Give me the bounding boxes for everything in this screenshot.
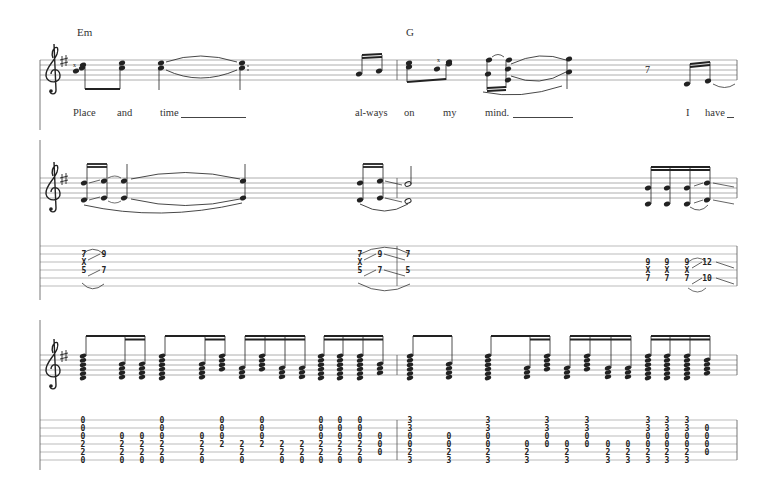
tab-fret-number: 2 — [260, 440, 265, 449]
chord-notehead — [79, 370, 87, 376]
chord-notehead — [376, 365, 384, 371]
chord-notehead — [118, 365, 126, 371]
tab-fret-number: 5 — [406, 266, 411, 275]
chord-notehead — [583, 357, 591, 363]
chord-notehead — [406, 366, 414, 372]
music-notation: x x 7 — [0, 0, 777, 489]
chord-notehead — [218, 362, 226, 368]
chord-notehead — [703, 361, 711, 367]
tab-fret-number: 10 — [702, 274, 712, 283]
system-2-tab-staff — [40, 246, 737, 286]
tab-fret-number: 0 — [545, 440, 550, 449]
tab-fret-number: 7 — [406, 250, 411, 259]
chord-notehead — [158, 375, 166, 381]
chord-notehead — [356, 366, 364, 372]
tab-fret-number: 3 — [525, 456, 530, 465]
tab-fret-number: 3 — [486, 456, 491, 465]
chord-notehead — [484, 366, 492, 372]
tab-fret-number: 7 — [102, 266, 107, 275]
chord-notehead — [356, 362, 364, 368]
chord-notehead — [484, 357, 492, 363]
chord-notehead — [336, 375, 344, 381]
chord-notehead — [158, 366, 166, 372]
chord-notehead — [683, 366, 691, 372]
tab-fret-number: 3 — [606, 456, 611, 465]
tab-fret-number: 12 — [702, 258, 712, 267]
chord-notehead — [356, 370, 364, 376]
chord-notehead — [336, 362, 344, 368]
chord-notehead — [79, 366, 87, 372]
chord-notehead — [356, 375, 364, 381]
tab-fret-number: 3 — [565, 456, 570, 465]
chord-notehead — [406, 370, 414, 376]
chord-notehead — [336, 370, 344, 376]
chord-notehead — [79, 362, 87, 368]
tab-fret-number: 7 — [378, 266, 383, 275]
system-3-tab-staff — [40, 420, 737, 460]
system-1-staff — [40, 60, 737, 80]
chord-notehead — [218, 366, 226, 372]
tab-fret-number: 3 — [447, 456, 452, 465]
system-3-chord-stack — [79, 336, 711, 381]
system-2-staff — [40, 178, 737, 198]
chord-notehead — [683, 362, 691, 368]
svg-text:x: x — [437, 57, 440, 63]
chord-notehead — [683, 357, 691, 363]
tab-fret-number: 0 — [319, 456, 324, 465]
chord-notehead — [198, 365, 206, 371]
chord-notehead — [317, 362, 325, 368]
tab-fret-number: 0 — [338, 456, 343, 465]
tab-fret-number: 0 — [300, 456, 305, 465]
chord-notehead — [683, 370, 691, 376]
chord-notehead — [317, 357, 325, 363]
chord-notehead — [663, 362, 671, 368]
tab-fret-number: 0 — [120, 456, 125, 465]
chord-notehead — [543, 366, 551, 372]
tab-fret-number: 5 — [358, 266, 363, 275]
chord-notehead — [583, 362, 591, 368]
chord-notehead — [663, 357, 671, 363]
tab-fret-number: 2 — [220, 440, 225, 449]
chord-notehead — [258, 357, 266, 363]
svg-text:7: 7 — [645, 64, 650, 75]
chord-notehead — [663, 366, 671, 372]
tab-fret-number: 0 — [378, 448, 383, 457]
chord-notehead — [79, 357, 87, 363]
chord-notehead — [583, 366, 591, 372]
chord-notehead — [644, 375, 652, 381]
chord-notehead — [644, 362, 652, 368]
chord-notehead — [336, 357, 344, 363]
tab-fret-number: 0 — [705, 448, 710, 457]
chord-notehead — [79, 375, 87, 381]
svg-text:x: x — [73, 62, 76, 68]
chord-notehead — [158, 362, 166, 368]
chord-notehead — [258, 366, 266, 372]
chord-notehead — [445, 365, 453, 371]
tab-fret-number: 0 — [81, 456, 86, 465]
tab-fret-number: 7 — [685, 274, 690, 283]
tab-fret-number: 3 — [685, 456, 690, 465]
tab-fret-number: 3 — [646, 456, 651, 465]
chord-notehead — [663, 370, 671, 376]
tab-fret-number: 7 — [646, 274, 651, 283]
chord-notehead — [138, 365, 146, 371]
chord-notehead — [484, 370, 492, 376]
chord-notehead — [484, 362, 492, 368]
tab-fret-number: 3 — [665, 456, 670, 465]
tab-fret-number: 0 — [240, 456, 245, 465]
chord-notehead — [543, 357, 551, 363]
chord-notehead — [663, 375, 671, 381]
chord-notehead — [644, 370, 652, 376]
tab-fret-number: 0 — [585, 440, 590, 449]
chord-notehead — [406, 357, 414, 363]
system-3-tab-numbers: 0002200220022000022002200002220000222022… — [81, 416, 710, 465]
chord-notehead — [158, 370, 166, 376]
chord-notehead — [336, 366, 344, 372]
tab-fret-number: 3 — [626, 456, 631, 465]
tab-fret-number: 0 — [160, 456, 165, 465]
chord-notehead — [683, 375, 691, 381]
tab-fret-number: 0 — [200, 456, 205, 465]
chord-notehead — [484, 375, 492, 381]
chord-notehead — [644, 366, 652, 372]
chord-notehead — [317, 370, 325, 376]
